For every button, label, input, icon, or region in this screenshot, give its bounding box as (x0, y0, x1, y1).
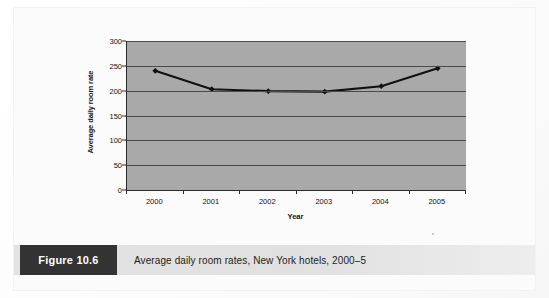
figure-page: Average daily room rate 0501001502002503… (0, 0, 549, 298)
x-axis-tick-label: 2001 (188, 197, 234, 206)
gridline (127, 41, 466, 42)
x-axis-tick-mark (465, 190, 466, 194)
y-axis-tick-mark (122, 90, 126, 91)
gridline (127, 140, 466, 141)
gridline (127, 165, 466, 166)
y-axis-tick-label: 0 (100, 186, 122, 195)
y-axis-tick-mark (122, 115, 126, 116)
y-axis-tick-mark (122, 41, 126, 42)
x-axis-tick-mark (296, 190, 297, 194)
y-axis-title: Average daily room rate (86, 52, 100, 172)
figure-caption-text: Average daily room rates, New York hotel… (134, 245, 366, 275)
x-axis-title: Year (126, 212, 465, 221)
x-axis-tick-mark (409, 190, 410, 194)
figure-number-tag: Figure 10.6 (20, 245, 117, 275)
y-axis-tick-label: 200 (100, 86, 122, 95)
y-axis-tick-label: 150 (100, 111, 122, 120)
x-axis-tick-mark (352, 190, 353, 194)
x-axis-tick-label: 2003 (301, 197, 347, 206)
x-axis-tick-label: 2004 (357, 197, 403, 206)
y-axis-tick-mark (122, 165, 126, 166)
y-axis-tick-labels: 050100150200250300 (100, 36, 122, 196)
gridline (127, 66, 466, 67)
x-axis-tick-label: 2005 (414, 197, 460, 206)
y-axis-tick-label: 100 (100, 136, 122, 145)
data-point-marker (152, 68, 158, 74)
gridline (127, 91, 466, 92)
page-speck (432, 233, 434, 235)
gridline (127, 116, 466, 117)
line-chart: Average daily room rate 0501001502002503… (0, 0, 549, 240)
data-point-marker (322, 89, 328, 95)
y-axis-tick-mark (122, 140, 126, 141)
y-axis-tick-mark (122, 65, 126, 66)
x-axis-tick-mark (126, 190, 127, 194)
y-axis-tick-label: 300 (100, 37, 122, 46)
x-axis-tick-mark (239, 190, 240, 194)
y-axis-tick-label: 50 (100, 161, 122, 170)
x-axis-tick-label: 2002 (244, 197, 290, 206)
data-point-marker (378, 83, 384, 89)
y-axis-tick-label: 250 (100, 61, 122, 70)
x-axis-tick-label: 2000 (131, 197, 177, 206)
series-line (155, 68, 438, 91)
plot-area (126, 41, 466, 191)
x-axis-tick-mark (183, 190, 184, 194)
